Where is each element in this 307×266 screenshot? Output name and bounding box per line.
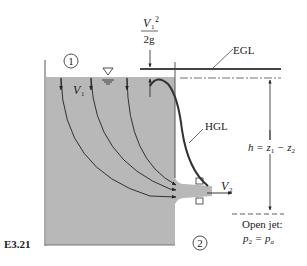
open-jet-suba: a (270, 238, 274, 246)
head-minus: − z (274, 141, 292, 153)
free-surface-symbol (103, 68, 113, 75)
flange-bottom (196, 198, 203, 204)
open-jet-condition: p2 = pa (242, 232, 274, 246)
egl-label: EGL (233, 44, 255, 56)
station-2-label: 2 (197, 237, 203, 249)
station-1-label: 1 (68, 55, 74, 67)
hgl-leader (189, 129, 203, 143)
velocity-head-denominator: 2g (144, 33, 156, 45)
open-jet-eq: = p (252, 232, 271, 244)
velocity-head-numerator-sub: 1 (151, 23, 155, 31)
tank-water (46, 77, 212, 245)
egl-leader (213, 49, 233, 68)
open-jet-label: Open jet: (242, 218, 283, 230)
head-eq: = z (254, 141, 272, 153)
bernoulli-tank-diagram: 1 2 V 1 2 2g V 1 EGL HGL h = z1 − z2 V 2… (0, 0, 307, 266)
hgl-label: HGL (205, 120, 228, 132)
figure-label: E3.21 (4, 238, 31, 250)
v1-label-sub: 1 (81, 90, 85, 98)
head-sub2: 2 (291, 147, 295, 155)
v2-label-sub: 2 (229, 186, 233, 194)
velocity-head-numerator-sup: 2 (155, 15, 159, 24)
